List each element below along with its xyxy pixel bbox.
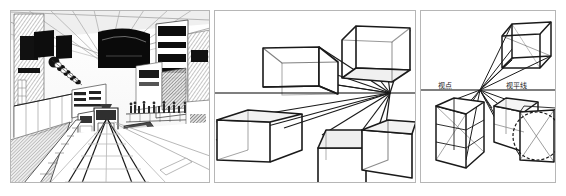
- cube-right-with-circle: [494, 98, 556, 162]
- viewpoint-diagram-artwork: [420, 10, 556, 183]
- cube-top-left: [263, 47, 338, 95]
- cube-center-bottom: [318, 130, 366, 183]
- panel-radial-cube-diagram: [214, 10, 416, 183]
- label-horizon-line: 视平线: [506, 83, 528, 90]
- perspective-figure: 视点 视平线: [0, 0, 566, 196]
- panel-street-scene: [10, 10, 210, 183]
- cube-left: [217, 110, 302, 162]
- label-viewpoint: 视点: [438, 83, 452, 90]
- street-scene-artwork: [10, 10, 210, 183]
- panel-viewpoint-diagram: 视点 视平线: [420, 10, 556, 183]
- radial-cube-artwork: [214, 10, 416, 183]
- cube-right-bottom: [362, 120, 416, 178]
- cube-top-right: [342, 26, 410, 82]
